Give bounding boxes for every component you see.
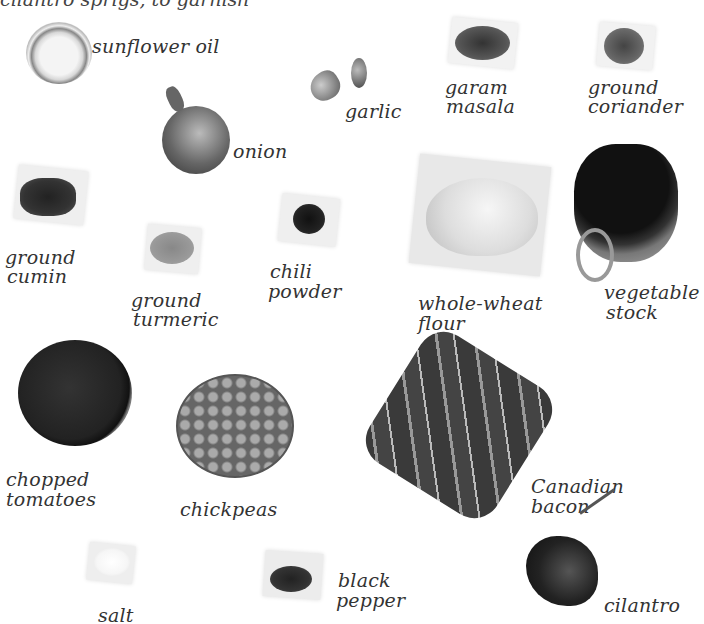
garam-masala-pile [455,26,510,60]
chili-powder-label-line1: chili [270,262,312,281]
cilantro-image [526,536,598,606]
whole-wheat-flour-label-line1: whole-wheat [418,294,543,313]
black-pepper-label-line1: black [338,571,391,590]
chickpeas-label: chickpeas [180,500,277,519]
whole-wheat-flour-pile [426,178,538,256]
ground-turmeric-label-line2: turmeric [133,310,219,329]
garam-masala-label-line2: masala [446,97,515,116]
whole-wheat-flour-label-line2: flour [418,314,465,333]
chopped-tomatoes-label-line1: chopped [6,470,89,489]
chopped-tomatoes-image [18,340,132,446]
black-pepper-pile [270,566,312,592]
chickpeas-image [176,374,294,478]
chili-powder-pile [293,204,325,234]
onion-image [162,106,230,174]
ground-coriander-pile [604,28,644,64]
onion-label: onion [233,142,287,161]
vegetable-stock-handle [576,228,614,282]
garlic-image [305,66,345,105]
sunflower-oil-image [26,22,92,84]
ground-coriander-label-line2: coriander [588,97,683,116]
vegetable-stock-label-line1: vegetable [604,283,700,302]
sunflower-oil-label: sunflower oil [92,37,220,56]
ground-turmeric-pile [150,232,194,264]
vegetable-stock-label-line2: stock [606,303,658,322]
garlic-image-2 [351,58,367,88]
black-pepper-label-line2: pepper [336,591,405,610]
cilantro-label: cilantro [604,596,680,615]
garlic-label: garlic [345,102,402,121]
salt-label: salt [98,606,134,624]
ground-cumin-pile [20,178,76,216]
salt-pile [94,548,130,576]
chili-powder-label-line2: powder [268,282,342,301]
cropped-header-text: cilantro sprigs, to garnish [0,0,250,10]
ground-cumin-label-line2: cumin [7,267,67,286]
chopped-tomatoes-label-line2: tomatoes [6,490,96,509]
